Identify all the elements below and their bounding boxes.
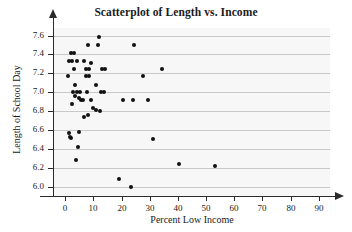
data-point bbox=[89, 98, 93, 102]
x-axis-tick-label: 0 bbox=[50, 203, 80, 213]
gridline bbox=[54, 168, 330, 169]
data-point bbox=[98, 109, 102, 113]
y-axis-tick bbox=[48, 92, 54, 93]
data-point bbox=[69, 136, 73, 140]
x-axis-title: Percent Low Income bbox=[54, 214, 330, 225]
data-point bbox=[82, 59, 86, 63]
data-point bbox=[102, 90, 106, 94]
plot-area bbox=[54, 28, 330, 196]
y-axis-tick bbox=[48, 130, 54, 131]
data-point bbox=[117, 177, 121, 181]
y-axis-arrow-icon bbox=[49, 9, 57, 18]
data-point bbox=[77, 130, 81, 134]
data-point bbox=[86, 113, 90, 117]
data-point bbox=[78, 90, 82, 94]
scatterplot-figure: Scatterplot of Length vs. Income 6.06.26… bbox=[0, 0, 352, 232]
x-axis-tick-label: 80 bbox=[276, 203, 306, 213]
gridline bbox=[54, 73, 330, 74]
x-axis-tick-label: 60 bbox=[219, 203, 249, 213]
data-point bbox=[103, 67, 107, 71]
data-point bbox=[72, 51, 76, 55]
data-point bbox=[131, 98, 135, 102]
x-axis-tick bbox=[178, 196, 179, 201]
x-axis-tick bbox=[65, 196, 66, 201]
data-point bbox=[132, 43, 136, 47]
y-axis-tick bbox=[48, 187, 54, 188]
data-point bbox=[72, 67, 76, 71]
x-axis-tick-label: 30 bbox=[135, 203, 165, 213]
x-axis-tick-label: 70 bbox=[247, 203, 277, 213]
data-point bbox=[87, 67, 91, 71]
data-point bbox=[73, 83, 77, 87]
data-point bbox=[94, 83, 98, 87]
y-axis-line bbox=[53, 16, 54, 196]
y-axis-tick bbox=[48, 111, 54, 112]
y-axis-tick bbox=[48, 36, 54, 37]
gridline bbox=[54, 187, 330, 188]
x-axis-tick bbox=[234, 196, 235, 201]
data-point bbox=[97, 35, 101, 39]
gridline bbox=[54, 36, 330, 37]
gridline bbox=[54, 54, 330, 55]
y-axis-title: Length of School Day bbox=[11, 50, 22, 170]
x-axis-tick bbox=[122, 196, 123, 201]
data-point bbox=[141, 74, 145, 78]
data-point bbox=[74, 158, 78, 162]
data-point bbox=[81, 98, 85, 102]
data-point bbox=[96, 43, 100, 47]
gridline bbox=[54, 92, 330, 93]
data-point bbox=[82, 115, 86, 119]
data-point bbox=[160, 67, 164, 71]
data-point bbox=[86, 43, 90, 47]
y-axis-tick bbox=[48, 73, 54, 74]
x-axis-tick-label: 10 bbox=[78, 203, 108, 213]
x-axis-tick bbox=[319, 196, 320, 201]
x-axis-tick-label: 20 bbox=[107, 203, 137, 213]
x-axis-tick-label: 50 bbox=[191, 203, 221, 213]
data-point bbox=[89, 61, 93, 65]
data-point bbox=[75, 59, 79, 63]
x-axis-tick bbox=[150, 196, 151, 201]
x-axis-tick bbox=[291, 196, 292, 201]
data-point bbox=[70, 59, 74, 63]
gridline bbox=[54, 149, 330, 150]
y-axis-tick bbox=[48, 54, 54, 55]
data-point bbox=[151, 137, 155, 141]
data-point bbox=[76, 145, 80, 149]
gridline bbox=[54, 130, 330, 131]
data-point bbox=[121, 98, 125, 102]
data-point bbox=[70, 102, 74, 106]
data-point bbox=[87, 74, 91, 78]
data-point bbox=[213, 164, 217, 168]
y-axis-tick-label: 7.6 bbox=[14, 30, 44, 40]
x-axis-tick bbox=[206, 196, 207, 201]
x-axis-tick bbox=[93, 196, 94, 201]
x-axis-tick-label: 40 bbox=[163, 203, 193, 213]
x-axis-arrow-icon bbox=[335, 192, 344, 200]
data-point bbox=[85, 90, 89, 94]
x-axis-tick-label: 90 bbox=[304, 203, 334, 213]
x-axis-tick bbox=[262, 196, 263, 201]
y-axis-tick bbox=[48, 168, 54, 169]
y-axis-tick-label: 6.0 bbox=[14, 181, 44, 191]
data-point bbox=[66, 74, 70, 78]
data-point bbox=[177, 162, 181, 166]
data-point bbox=[146, 98, 150, 102]
y-axis-tick bbox=[48, 149, 54, 150]
